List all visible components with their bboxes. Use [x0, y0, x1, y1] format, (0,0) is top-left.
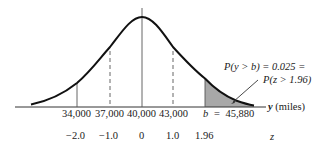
label-b: b = 45,880	[203, 109, 254, 120]
label-34000: 34,000	[62, 109, 91, 120]
z-label-196: 1.96	[195, 131, 213, 142]
annotation-arrow-line	[233, 80, 258, 102]
label-43000: 43,000	[159, 109, 188, 120]
z-label-minus2: −2.0	[66, 131, 85, 142]
axis-label-z: z	[270, 132, 274, 143]
bell-curve	[31, 17, 254, 106]
axis-y-unit: (miles)	[275, 101, 305, 112]
annotation-line-2: P(z > 1.96)	[263, 75, 311, 86]
z-label-minus1: −1.0	[99, 131, 118, 142]
label-b-equals: =	[214, 108, 220, 119]
label-37000: 37,000	[95, 109, 124, 120]
axis-label-y: y (miles)	[268, 102, 305, 113]
shaded-tail-region	[205, 79, 254, 108]
axis-y-symbol: y	[268, 101, 273, 112]
label-b-value: 45,880	[225, 108, 254, 119]
label-40000: 40,000	[127, 109, 156, 120]
annotation-line-1: P(y > b) = 0.025 =	[224, 62, 305, 73]
normal-distribution-figure	[0, 0, 331, 145]
z-label-1: 1.0	[166, 131, 179, 142]
z-label-0: 0	[139, 131, 144, 142]
label-b-symbol: b	[203, 108, 208, 119]
